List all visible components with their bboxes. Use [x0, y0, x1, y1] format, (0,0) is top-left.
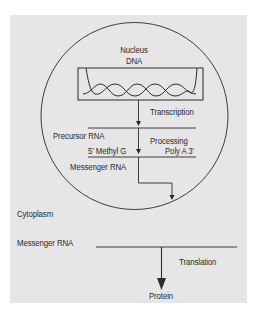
translation-label: Translation: [179, 257, 216, 267]
processing-arrow-icon: [136, 149, 141, 154]
processing-label: Processing: [150, 136, 188, 146]
dna-helix-icon: [83, 68, 197, 96]
messenger-rna-nucleus-label: Messenger RNA: [70, 162, 126, 172]
poly-a-tail-label: Poly A 3': [165, 146, 194, 156]
export-path: [139, 157, 173, 196]
export-arrow-icon: [170, 195, 175, 200]
dna-box: [78, 68, 203, 100]
dna-label: DNA: [106, 56, 161, 66]
transcription-label: Transcription: [150, 107, 194, 117]
translation-arrow-icon: [157, 278, 166, 290]
messenger-rna-cytoplasm-label: Messenger RNA: [17, 238, 73, 248]
five-prime-cap-label: 5' Methyl G: [88, 146, 126, 156]
nucleus-label: Nucleus: [106, 45, 161, 55]
precursor-rna-label: Precursor RNA: [53, 131, 104, 141]
cytoplasm-label: Cytoplasm: [17, 209, 53, 219]
transcription-arrow-icon: [136, 121, 141, 126]
protein-label: Protein: [133, 291, 188, 301]
